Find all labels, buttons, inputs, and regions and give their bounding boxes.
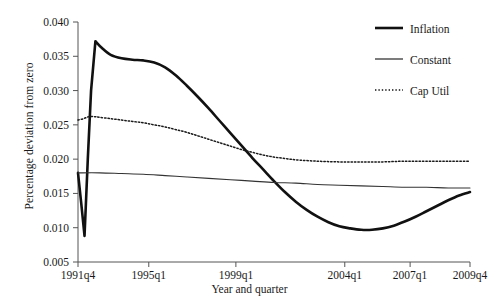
x-tick-label: 1999q1: [219, 269, 254, 282]
series-line-inflation: [78, 41, 470, 236]
y-tick-label: 0.040: [43, 16, 69, 28]
legend-label-inflation: Inflation: [410, 23, 450, 35]
y-tick-label: 0.005: [43, 256, 69, 268]
chart-canvas: 0.0400.0350.0300.0250.0200.0150.0100.005…: [0, 0, 499, 305]
y-tick-label: 0.020: [43, 153, 69, 165]
x-tick-label: 2007q1: [393, 269, 428, 282]
y-tick-label: 0.010: [43, 222, 69, 234]
chart-legend: InflationConstantCap Util: [375, 23, 452, 98]
chart-figure: Percentage deviation from zero Year and …: [0, 0, 499, 305]
y-tick-label: 0.030: [43, 85, 69, 97]
legend-label-constant: Constant: [410, 54, 452, 66]
x-tick-label: 1991q4: [61, 269, 96, 282]
y-axis-tick-group: 0.0400.0350.0300.0250.0200.0150.0100.005: [43, 16, 78, 268]
x-axis-tick-group: 1991q41995q11999q12004q12007q12009q4: [61, 262, 488, 282]
legend-label-cap-util: Cap Util: [410, 85, 449, 98]
y-tick-label: 0.015: [43, 187, 69, 199]
x-tick-label: 2004q1: [328, 269, 363, 282]
x-tick-label: 1995q1: [132, 269, 167, 282]
x-tick-label: 2009q4: [453, 269, 488, 282]
series-group: [78, 41, 470, 236]
series-line-cap-util: [78, 116, 470, 161]
y-tick-label: 0.035: [43, 50, 69, 62]
y-tick-label: 0.025: [43, 119, 69, 131]
